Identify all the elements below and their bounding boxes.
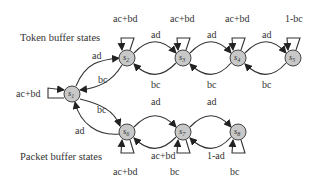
svg-text:bc: bc (170, 166, 180, 177)
edge-s4-s4: ac+bd (225, 13, 250, 50)
svg-text:ac+bd: ac+bd (16, 88, 41, 99)
svg-text:1-bc: 1-bc (285, 13, 303, 24)
edge-s8-s7: 1-ad (190, 137, 231, 161)
node-s3: s3 (175, 50, 191, 66)
svg-text:ac+bd: ac+bd (113, 166, 138, 177)
svg-text:bc: bc (98, 74, 108, 85)
node-s8: s8 (230, 124, 246, 140)
edge-s6-s6: ac+bd (113, 140, 138, 177)
svg-text:bc: bc (97, 104, 107, 115)
edge-s7-s8: ad (190, 96, 231, 127)
edge-s3-s4: ad (190, 29, 231, 53)
edge-s3-s2: bc (134, 63, 176, 90)
diagram-svg: Token buffer states Packet buffer states… (0, 0, 317, 184)
edge-s4-s3: bc (190, 63, 231, 90)
edge-s8-s8: bc (230, 140, 245, 177)
node-s5: s5 (285, 50, 301, 66)
svg-text:bc: bc (230, 166, 240, 177)
edge-s5-s5: 1-bc (285, 13, 303, 50)
svg-text:1-ad: 1-ad (207, 150, 225, 161)
svg-text:ad: ad (262, 29, 271, 40)
svg-text:ad: ad (151, 96, 160, 107)
edge-s2-s3: ad (134, 29, 176, 53)
edge-s6-s7: ad (134, 96, 176, 127)
svg-text:ad: ad (207, 29, 216, 40)
edge-s1-s1: ac+bd (16, 88, 64, 99)
node-s1: s1 (64, 86, 80, 102)
node-s4: s4 (230, 50, 246, 66)
svg-text:bc: bc (207, 79, 217, 90)
edge-s5-s4: bc (245, 63, 286, 90)
svg-text:ad: ad (207, 96, 216, 107)
edge-s2-s2: ac+bd (113, 13, 138, 50)
svg-text:ad: ad (75, 125, 84, 136)
svg-text:bc: bc (262, 79, 272, 90)
edge-s1-s6: bc (80, 99, 120, 126)
svg-text:ad: ad (92, 50, 101, 61)
edge-s2-s1: bc (80, 65, 122, 90)
edge-s7-s6: ac+bd (134, 137, 176, 161)
svg-text:ac+bd: ac+bd (225, 13, 250, 24)
svg-text:ad: ad (151, 29, 160, 40)
svg-text:bc: bc (151, 79, 161, 90)
token-buffer-label: Token buffer states (20, 32, 100, 43)
node-s7: s7 (175, 124, 191, 140)
node-s2: s2 (119, 50, 135, 66)
svg-text:ac+bd: ac+bd (151, 150, 176, 161)
svg-text:ac+bd: ac+bd (170, 13, 195, 24)
edge-s4-s5: ad (245, 29, 286, 53)
packet-buffer-label: Packet buffer states (20, 151, 102, 162)
edge-s3-s3: ac+bd (170, 13, 195, 50)
svg-text:ac+bd: ac+bd (113, 13, 138, 24)
node-s6: s6 (119, 124, 135, 140)
state-diagram: Token buffer states Packet buffer states… (0, 0, 317, 184)
